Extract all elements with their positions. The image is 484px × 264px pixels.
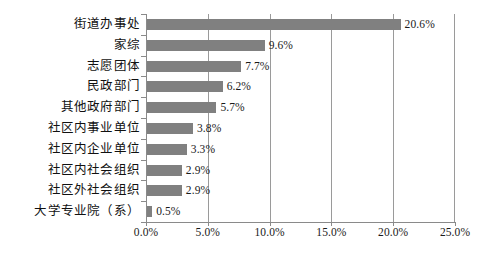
- bar-value-label: 2.9%: [186, 182, 210, 198]
- x-axis-tick-label: 10.0%: [235, 226, 305, 238]
- bar: [146, 123, 193, 134]
- bar-row: 9.6%: [146, 35, 455, 56]
- bar: [146, 40, 265, 51]
- bar: [146, 144, 187, 155]
- bar-value-label: 2.9%: [186, 162, 210, 178]
- bar: [146, 61, 241, 72]
- x-axis-tick-label: 20.0%: [358, 226, 428, 238]
- bar-value-label: 7.7%: [245, 58, 269, 74]
- category-label: 志愿团体: [0, 56, 140, 77]
- bar-value-label: 3.8%: [197, 120, 221, 136]
- y-axis-tick: [141, 35, 146, 36]
- y-axis-tick: [141, 97, 146, 98]
- bar-chart: 20.6%9.6%7.7%6.2%5.7%3.8%3.3%2.9%2.9%0.5…: [0, 0, 484, 264]
- bar-value-label: 6.2%: [227, 78, 251, 94]
- category-label: 社区内社会组织: [0, 160, 140, 181]
- y-axis-line: [146, 14, 147, 223]
- plot-area: 20.6%9.6%7.7%6.2%5.7%3.8%3.3%2.9%2.9%0.5…: [146, 14, 455, 222]
- x-axis-tick-label: 5.0%: [173, 226, 243, 238]
- category-axis-labels: 街道办事处家综志愿团体民政部门其他政府部门社区内事业单位社区内企业单位社区内社会…: [0, 14, 140, 222]
- y-axis-tick: [141, 14, 146, 15]
- bar-value-label: 0.5%: [156, 203, 180, 219]
- y-axis-tick: [141, 118, 146, 119]
- y-axis-tick: [141, 76, 146, 77]
- bar-row: 6.2%: [146, 76, 455, 97]
- category-label: 社区外社会组织: [0, 180, 140, 201]
- category-label: 其他政府部门: [0, 97, 140, 118]
- bar-row: 5.7%: [146, 97, 455, 118]
- bar-value-label: 20.6%: [405, 16, 435, 32]
- bar: [146, 81, 223, 92]
- category-label: 街道办事处: [0, 14, 140, 35]
- category-label: 家综: [0, 35, 140, 56]
- bar-row: 0.5%: [146, 201, 455, 222]
- x-axis-tick-label: 0.0%: [111, 226, 181, 238]
- bar-row: 3.3%: [146, 139, 455, 160]
- bar-row: 7.7%: [146, 56, 455, 77]
- y-axis-tick: [141, 180, 146, 181]
- category-label: 社区内企业单位: [0, 139, 140, 160]
- bar: [146, 19, 401, 30]
- y-axis-tick: [141, 201, 146, 202]
- x-axis-tick-label: 25.0%: [420, 226, 484, 238]
- bar-value-label: 5.7%: [220, 99, 244, 115]
- bar-row: 20.6%: [146, 14, 455, 35]
- bar-row: 2.9%: [146, 160, 455, 181]
- bar-row: 2.9%: [146, 180, 455, 201]
- bar: [146, 102, 216, 113]
- bar-value-label: 3.3%: [191, 141, 215, 157]
- y-axis-tick: [141, 160, 146, 161]
- x-axis-tick-label: 15.0%: [296, 226, 366, 238]
- bar-row: 3.8%: [146, 118, 455, 139]
- category-label: 民政部门: [0, 76, 140, 97]
- category-label: 大学专业院（系）: [0, 201, 140, 222]
- x-axis-line: [146, 222, 456, 223]
- category-label: 社区内事业单位: [0, 118, 140, 139]
- bar: [146, 165, 182, 176]
- y-axis-tick: [141, 139, 146, 140]
- y-axis-tick: [141, 56, 146, 57]
- bar-value-label: 9.6%: [269, 37, 293, 53]
- bar: [146, 185, 182, 196]
